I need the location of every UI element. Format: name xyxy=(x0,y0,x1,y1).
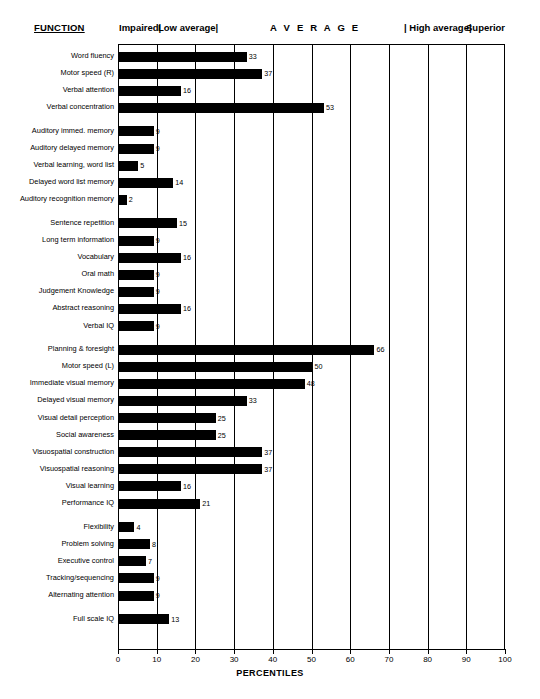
x-tick-label-50: 50 xyxy=(307,655,316,664)
bar-value-label: 9 xyxy=(156,144,160,153)
x-tick-mark-90 xyxy=(466,650,467,654)
bar-row: Oral math9 xyxy=(0,266,540,283)
bar-row: Verbal concentration53 xyxy=(0,99,540,116)
bar-value-label: 2 xyxy=(129,195,133,204)
bar-value-label: 37 xyxy=(264,465,272,474)
bar-row: Verbal learning, word list5 xyxy=(0,157,540,174)
bar xyxy=(119,236,154,246)
x-tick-mark-50 xyxy=(312,650,313,654)
bar-value-label: 25 xyxy=(218,431,226,440)
bar-row: Long term information9 xyxy=(0,232,540,249)
bar-value-label: 8 xyxy=(152,540,156,549)
bar-rows: Word fluency33Motor speed (R)37Verbal at… xyxy=(0,44,540,650)
bar xyxy=(119,396,247,406)
bar xyxy=(119,218,177,228)
bar xyxy=(119,413,216,423)
x-tick-mark-30 xyxy=(234,650,235,654)
category-label: Alternating attention xyxy=(48,590,114,599)
x-tick-mark-20 xyxy=(195,650,196,654)
bar-row: Flexibility4 xyxy=(0,519,540,536)
x-tick-mark-40 xyxy=(273,650,274,654)
band-label-low-average: Low average| xyxy=(158,22,218,33)
bar-value-label: 53 xyxy=(326,103,334,112)
bar-row: Auditory delayed memory9 xyxy=(0,140,540,157)
bar-value-label: 15 xyxy=(179,219,187,228)
bar-row: Social awareness25 xyxy=(0,427,540,444)
bar xyxy=(119,430,216,440)
bar-value-label: 16 xyxy=(183,86,191,95)
category-label: Motor speed (L) xyxy=(62,361,114,370)
category-label: Immediate visual memory xyxy=(30,378,114,387)
percentile-bar-chart: FUNCTION Impaired| Low average| A V E R … xyxy=(0,0,540,699)
category-label: Delayed word list memory xyxy=(29,177,114,186)
category-label: Visuospatial reasoning xyxy=(40,464,114,473)
bar-row: Verbal attention16 xyxy=(0,82,540,99)
x-tick-label-20: 20 xyxy=(191,655,200,664)
bar-value-label: 9 xyxy=(156,236,160,245)
category-label: Full scale IQ xyxy=(73,614,114,623)
bar-value-label: 25 xyxy=(218,414,226,423)
bar-row: Problem solving8 xyxy=(0,536,540,553)
bar xyxy=(119,52,247,62)
bar-row: Motor speed (L)50 xyxy=(0,358,540,375)
category-label: Flexibility xyxy=(84,522,114,531)
x-tick-mark-100 xyxy=(505,650,506,654)
category-label: Auditory immed. memory xyxy=(32,126,114,135)
bar-row: Full scale IQ13 xyxy=(0,611,540,628)
category-label: Oral math xyxy=(82,269,114,278)
category-label: Word fluency xyxy=(71,51,114,60)
category-label: Motor speed (R) xyxy=(61,68,114,77)
bar-value-label: 33 xyxy=(249,396,257,405)
category-label: Auditory delayed memory xyxy=(30,143,114,152)
bar-row: Word fluency33 xyxy=(0,48,540,65)
bar xyxy=(119,591,154,601)
category-label: Tracking/sequencing xyxy=(46,573,114,582)
category-label: Problem solving xyxy=(61,539,114,548)
bar-row: Delayed word list memory14 xyxy=(0,174,540,191)
bar-value-label: 5 xyxy=(140,161,144,170)
x-tick-mark-0 xyxy=(118,650,119,654)
bar-value-label: 9 xyxy=(156,127,160,136)
bar xyxy=(119,195,127,205)
category-label: Verbal IQ xyxy=(83,321,114,330)
bar-value-label: 50 xyxy=(315,362,323,371)
bar xyxy=(119,362,313,372)
bar-row: Auditory immed. memory9 xyxy=(0,123,540,140)
category-label: Abstract reasoning xyxy=(52,303,114,312)
bar-value-label: 13 xyxy=(171,615,179,624)
category-label: Performance IQ xyxy=(62,498,114,507)
bar-value-label: 9 xyxy=(156,270,160,279)
bar-row: Motor speed (R)37 xyxy=(0,65,540,82)
bar xyxy=(119,126,154,136)
bar-value-label: 21 xyxy=(202,499,210,508)
bar-row: Auditory recognition memory2 xyxy=(0,191,540,208)
bar-row: Delayed visual memory33 xyxy=(0,392,540,409)
x-tick-label-90: 90 xyxy=(462,655,471,664)
category-label: Planning & foresight xyxy=(48,344,114,353)
bar-value-label: 66 xyxy=(376,345,384,354)
category-label: Judgement Knowledge xyxy=(39,286,114,295)
bar xyxy=(119,447,262,457)
bar xyxy=(119,304,181,314)
category-label: Sentence repetition xyxy=(50,218,114,227)
bar-value-label: 37 xyxy=(264,448,272,457)
bar xyxy=(119,345,374,355)
bar-value-label: 37 xyxy=(264,69,272,78)
bar xyxy=(119,614,169,624)
bar xyxy=(119,464,262,474)
function-column-header: FUNCTION xyxy=(34,22,85,33)
bar-row: Performance IQ21 xyxy=(0,495,540,512)
bar xyxy=(119,481,181,491)
category-label: Visual learning xyxy=(66,481,114,490)
bar-value-label: 16 xyxy=(183,482,191,491)
bar-row: Immediate visual memory48 xyxy=(0,375,540,392)
x-tick-label-80: 80 xyxy=(423,655,432,664)
bar-row: Tracking/sequencing9 xyxy=(0,570,540,587)
category-label: Visuospatial construction xyxy=(32,447,114,456)
bar-value-label: 9 xyxy=(156,287,160,296)
x-axis-title: PERCENTILES xyxy=(0,668,540,678)
bar xyxy=(119,556,146,566)
x-tick-label-100: 100 xyxy=(498,655,511,664)
bar xyxy=(119,379,305,389)
category-label: Long term information xyxy=(42,235,114,244)
